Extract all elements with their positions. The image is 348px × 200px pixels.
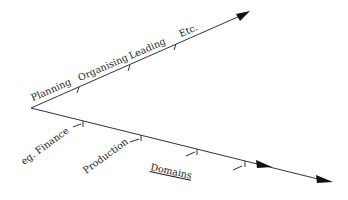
- functions-axis-arrowhead-icon: [236, 11, 250, 21]
- domains-axis-arrowhead-icon: [316, 175, 333, 183]
- domains-dash: [186, 152, 195, 156]
- function-label-organising: Organising: [76, 52, 129, 84]
- domains-dash: [130, 139, 139, 142]
- domains-axis-title: Domains: [150, 161, 194, 181]
- functions-tick: [128, 65, 130, 71]
- domain-label-finance: eg. Finance: [19, 124, 71, 166]
- domains-axis-mid-arrowhead-icon: [256, 160, 272, 168]
- domains-dash: [73, 124, 81, 127]
- management-functions-domains-diagram: Planning Organising Leading Etc. eg. Fin…: [0, 0, 348, 200]
- domain-label-production: Production: [81, 136, 130, 176]
- domains-dash: [233, 166, 242, 170]
- functions-axis-line: [31, 16, 240, 108]
- function-label-etc: Etc.: [177, 21, 199, 39]
